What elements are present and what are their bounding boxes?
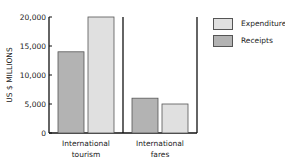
x-tick-label: fares	[151, 150, 170, 159]
y-tick-label: 5,000	[25, 100, 47, 109]
y-tick-label: 20,000	[20, 13, 46, 22]
legend-item-receipts: Receipts	[213, 32, 285, 49]
legend: Expenditure Receipts	[213, 15, 285, 49]
x-tick-label: International	[62, 139, 110, 148]
x-tick-label: tourism	[72, 150, 101, 159]
y-tick-label: 15,000	[20, 42, 46, 51]
y-tick-label: 0	[41, 129, 46, 138]
bar-expenditure-0	[88, 17, 114, 133]
y-tick-label: 10,000	[20, 71, 46, 80]
x-tick-label: International	[136, 139, 184, 148]
legend-item-expenditure: Expenditure	[213, 15, 285, 32]
legend-label-receipts: Receipts	[241, 36, 273, 45]
legend-label-expenditure: Expenditure	[241, 19, 285, 28]
bar-receipts-0	[58, 52, 84, 133]
legend-swatch-receipts	[213, 35, 233, 47]
legend-swatch-expenditure	[213, 18, 233, 30]
bar-receipts-1	[132, 98, 158, 133]
y-axis-label: US $ MILLIONS	[5, 47, 14, 103]
bar-expenditure-1	[162, 104, 188, 133]
